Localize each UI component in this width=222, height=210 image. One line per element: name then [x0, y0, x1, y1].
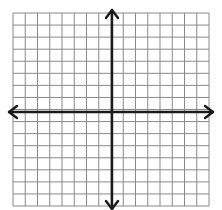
coordinate-plane [0, 0, 222, 210]
